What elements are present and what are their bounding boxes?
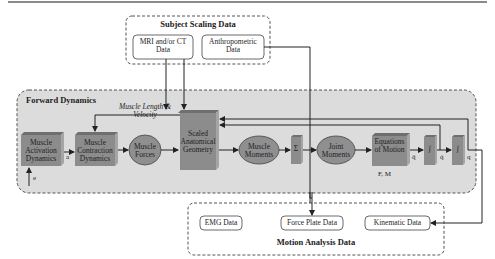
signal-fm: F, M [378, 171, 391, 178]
forward-dynamics-title: Forward Dynamics [26, 96, 96, 105]
emg-label: EMG Data [200, 219, 242, 227]
eom-label: Equations of Motion [372, 138, 407, 154]
signal-q: q [467, 154, 471, 161]
kinematic-label: Kinematic Data [365, 219, 430, 227]
joint-moments-label: Joint Moments [318, 143, 354, 159]
integrator-1-label: ∫ [424, 145, 435, 153]
integrator-2-label: ∫ [452, 145, 463, 153]
muscle-forces-label: Muscle Forces [130, 143, 160, 159]
sum-label: Σ [291, 145, 301, 153]
mri-ct-label: MRI and/or CT Data [135, 38, 191, 54]
force-plate-label: Force Plate Data [281, 219, 343, 227]
signal-qd: q̇ [440, 154, 444, 161]
signal-a: a [66, 154, 69, 161]
signal-qdd: q̈ [412, 154, 416, 161]
geometry-label: Scaled Anatomical Geometry [180, 130, 216, 154]
activation-label: Muscle Activation Dynamics [21, 139, 61, 163]
anthropometric-label: Anthropometric Data [204, 38, 262, 54]
feedback-label: Muscle Length & Velocity [110, 103, 180, 119]
muscle-moments-label: Muscle Moments [241, 143, 277, 159]
motion-analysis-title: Motion Analysis Data [188, 238, 444, 247]
subject-scaling-title: Subject Scaling Data [126, 20, 270, 29]
signal-e: e [33, 175, 36, 182]
contraction-label: Muscle Contraction Dynamics [75, 139, 115, 163]
